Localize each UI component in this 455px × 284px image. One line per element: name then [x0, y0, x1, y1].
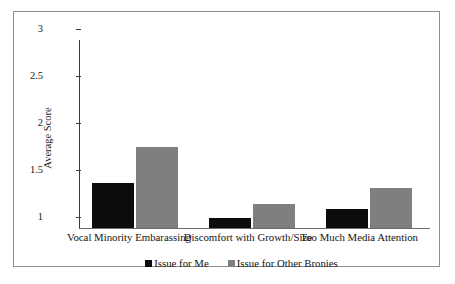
- bar: [370, 188, 412, 228]
- legend-label: Issue for Other Bronies: [237, 257, 338, 269]
- bar: [209, 218, 251, 228]
- y-axis-title: Average Score: [42, 100, 56, 176]
- x-axis-line: [79, 228, 430, 229]
- bar: [253, 204, 295, 228]
- y-axis-title-text: Average Score: [42, 100, 54, 176]
- y-axis-tick-label: 1.5: [30, 165, 43, 175]
- legend-entry: Issue for Other Bronies: [228, 257, 338, 269]
- legend-color-swatch-icon: [228, 260, 235, 267]
- legend-color-swatch-icon: [145, 260, 152, 267]
- y-axis-tick-label: 2: [38, 118, 43, 128]
- y-axis-tick-label: 2.5: [30, 71, 43, 81]
- y-axis-tick-label: 3: [38, 24, 43, 34]
- bar-chart-figure: Average Score 11.522.53 Vocal Minority E…: [0, 0, 455, 284]
- y-axis-tick-mark: [76, 29, 81, 30]
- bar-group: [313, 40, 430, 228]
- y-axis-tick-label: 1: [38, 212, 43, 222]
- bar-group: [197, 40, 314, 228]
- legend-entry: Issue for Me: [145, 257, 209, 269]
- bar-group: [80, 40, 197, 228]
- chart-frame-border: Average Score 11.522.53 Vocal Minority E…: [13, 11, 440, 267]
- bar: [326, 209, 368, 228]
- bar: [136, 147, 178, 228]
- x-axis-category-label: Too Much Media Attention: [300, 231, 417, 244]
- x-axis-category-label: Discomfort with Growth/Size: [184, 231, 301, 244]
- x-axis-category-label: Vocal Minority Embarassing: [67, 231, 184, 244]
- legend-label: Issue for Me: [154, 257, 209, 269]
- plot-area: [80, 40, 430, 228]
- chart-legend: Issue for MeIssue for Other Bronies: [14, 257, 455, 269]
- bar: [92, 183, 134, 228]
